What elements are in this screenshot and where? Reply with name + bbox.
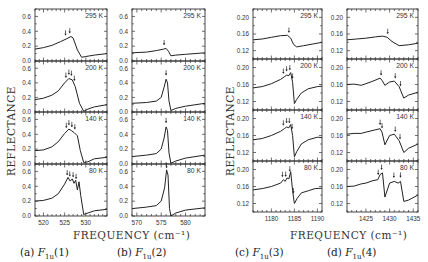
y-tick-label: 0.0 — [22, 212, 31, 219]
y-tick-label: 0.12 — [331, 200, 344, 207]
reflectance-curve — [35, 177, 107, 214]
arrow-icon — [387, 29, 389, 34]
y-tick-label: 0.16 — [237, 30, 250, 37]
arrow-icon — [380, 70, 382, 75]
arrow-icon — [288, 118, 290, 123]
caption-d-sub: 1u — [353, 253, 362, 261]
caption-a-sub: 1u — [45, 253, 54, 261]
reflectance-curve — [253, 172, 322, 204]
y-tick-label: 0.2 — [119, 145, 128, 152]
arrow-icon — [379, 120, 381, 125]
y-tick-label: 0.12 — [237, 200, 250, 207]
y-tick-label: 0.4 — [119, 79, 128, 86]
y-tick-label: 0.0 — [22, 57, 31, 64]
arrow-icon — [282, 68, 284, 73]
panel-c: 0.120.160.20295 K0.120.160.20200 K0.120.… — [237, 9, 325, 222]
reflectance-curve — [347, 173, 418, 202]
arrow-icon — [288, 28, 290, 33]
temperature-label: 140 K — [85, 115, 103, 122]
reflectance-curve — [253, 73, 322, 104]
reflectance-curve — [132, 79, 205, 110]
y-tick-label: 0.4 — [22, 131, 31, 138]
panel-d: 0.120.160.20295 K0.120.160.20200 K0.120.… — [331, 9, 421, 222]
y-tick-label: 0.2 — [22, 145, 31, 152]
arrow-icon — [64, 30, 66, 35]
x-tick-label: 1180 — [265, 215, 279, 222]
y-tick-label: 0.0 — [22, 108, 31, 115]
temperature-label: 140 K — [300, 113, 318, 120]
y-tick-label: 0.16 — [237, 132, 250, 139]
subplot-c-295K: 0.120.160.20295 K — [237, 9, 322, 59]
subplot-d-295K: 0.120.160.20295 K — [331, 9, 418, 59]
x-tick-label: 580 — [180, 219, 191, 226]
temperature-label: 295 K — [396, 12, 414, 19]
x-tick-label: 1425 — [359, 215, 374, 222]
temperature-label: 140 K — [396, 113, 414, 120]
arrow-icon — [75, 174, 77, 179]
arrow-icon — [65, 123, 67, 128]
arrow-icon — [163, 40, 165, 45]
arrow-icon — [70, 71, 72, 76]
y-tick-label: 0.20 — [331, 166, 344, 173]
caption-a-prefix: (a) — [20, 246, 38, 258]
subplot-d-80K: 0.120.160.2080 K142514301435 — [331, 161, 421, 222]
temperature-label: 80 K — [89, 167, 103, 174]
reflectance-curve — [253, 35, 322, 47]
subplot-b-80K: 0.00.20.40.680 K570575580 — [119, 163, 205, 226]
temperature-label: 200 K — [85, 64, 103, 71]
subplot-c-200K: 0.120.160.20200 K — [237, 59, 322, 110]
caption-d: (d) F1u(4) — [327, 246, 376, 261]
subplot-b-140K: 0.00.20.40.6140 K — [119, 112, 205, 167]
caption-c-sub: 1u — [260, 253, 269, 261]
arrow-icon — [377, 170, 379, 175]
reflectance-curve — [347, 36, 418, 46]
y-tick-label: 0.12 — [331, 47, 344, 54]
arrow-icon — [282, 120, 284, 125]
y-tick-label: 0.6 — [119, 168, 128, 175]
reflectance-curve — [132, 127, 205, 163]
arrow-icon — [65, 73, 67, 78]
arrow-icon — [285, 118, 287, 123]
arrow-icon — [68, 120, 70, 125]
y-tick-label: 0.6 — [22, 168, 31, 175]
arrow-icon — [165, 118, 167, 123]
y-tick-label: 0.6 — [119, 13, 128, 20]
subplot-a-295K: 0.00.20.40.6295 K — [22, 9, 107, 64]
arrow-icon — [73, 76, 75, 81]
caption-a-suffix: (1) — [54, 246, 69, 258]
x-tick-label: 520 — [38, 219, 49, 226]
arrow-icon — [71, 122, 73, 127]
caption-c: (c) F1u(3) — [235, 246, 284, 261]
y-tick-label: 0.12 — [331, 149, 344, 156]
x-tick-label: 1185 — [288, 215, 302, 222]
caption-b: (b) F1u(2) — [117, 246, 166, 261]
arrow-icon — [165, 70, 167, 75]
arrow-icon — [72, 172, 74, 177]
reflectance-curve — [35, 129, 107, 162]
caption-d-suffix: (4) — [362, 246, 377, 258]
y-tick-label: 0.2 — [119, 42, 128, 49]
subplot-c-140K: 0.120.160.20140 K — [237, 110, 322, 161]
arrow-icon — [66, 170, 68, 175]
y-tick-label: 0.20 — [237, 14, 250, 21]
y-tick-label: 0.20 — [331, 64, 344, 71]
y-tick-label: 0.4 — [22, 79, 31, 86]
arrow-icon — [394, 73, 396, 78]
y-tick-label: 0.20 — [237, 64, 250, 71]
arrow-icon — [381, 123, 383, 128]
arrow-icon — [69, 28, 71, 33]
y-tick-label: 0.0 — [22, 160, 31, 167]
temperature-label: 295 K — [85, 12, 103, 19]
caption-a: (a) F1u(1) — [20, 246, 69, 261]
arrow-icon — [399, 172, 401, 177]
x-tick-label: 575 — [156, 219, 167, 226]
reflectance-curve — [347, 129, 418, 153]
temperature-label: 80 K — [187, 167, 201, 174]
arrow-icon — [399, 81, 401, 86]
arrow-icon — [281, 172, 283, 177]
y-tick-label: 0.12 — [331, 98, 344, 105]
y-axis-label-right: REFLECTANCE — [224, 86, 236, 176]
x-axis-label-left: FREQUENCY (cm⁻¹) — [73, 229, 190, 241]
caption-b-suffix: (2) — [152, 246, 167, 258]
caption-b-symbol: F — [135, 246, 142, 258]
